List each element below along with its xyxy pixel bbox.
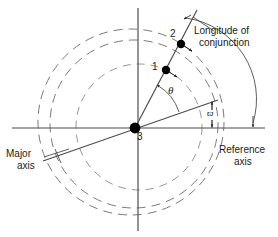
orbital-geometry-diagram: 2 1 3 θ ϖ Longitude of conjunction Refer… bbox=[0, 0, 278, 237]
marker-point-2 bbox=[177, 40, 185, 48]
marker-point-1 bbox=[162, 66, 170, 74]
marker-2-velocity-arrow bbox=[184, 46, 192, 51]
label-major-axis-line2: axis bbox=[17, 160, 35, 171]
marker-1-velocity-arrow bbox=[169, 72, 177, 77]
orbit-paths bbox=[38, 29, 224, 215]
label-reference-axis-line1: Reference bbox=[219, 144, 265, 155]
orbit-outer-dashed bbox=[38, 29, 224, 215]
label-point-2: 2 bbox=[170, 28, 176, 39]
label-point-1: 1 bbox=[152, 61, 158, 72]
label-longitude-of-conjunction-line2: conjunction bbox=[199, 37, 250, 48]
callout-leaders bbox=[44, 17, 214, 163]
label-reference-axis-line2: axis bbox=[234, 156, 252, 167]
label-omega-bar: ϖ bbox=[207, 108, 213, 119]
label-longitude-of-conjunction-line1: Longitude of bbox=[194, 25, 249, 36]
label-point-3: 3 bbox=[137, 131, 143, 142]
label-theta: θ bbox=[168, 85, 173, 96]
label-major-axis-line1: Major bbox=[6, 148, 31, 159]
